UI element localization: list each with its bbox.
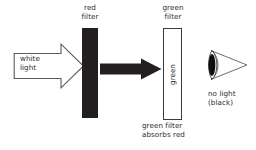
transmitted-beam-arrow-icon <box>100 58 162 80</box>
green-filter-inner-text: green <box>168 64 177 85</box>
green-filter-caption: green filter absorbs red <box>142 122 214 139</box>
optics-diagram: white light red filter green filter gree… <box>0 0 256 150</box>
white-light-label: white light <box>20 55 60 72</box>
red-filter-label: red filter <box>62 4 118 21</box>
green-filter-label: green filter <box>146 4 200 21</box>
red-filter-bar-icon <box>82 28 98 118</box>
eye-icon <box>206 46 250 84</box>
green-filter-inner-text-wrap: green <box>163 28 182 120</box>
observer-label: no light (black) <box>208 90 254 107</box>
